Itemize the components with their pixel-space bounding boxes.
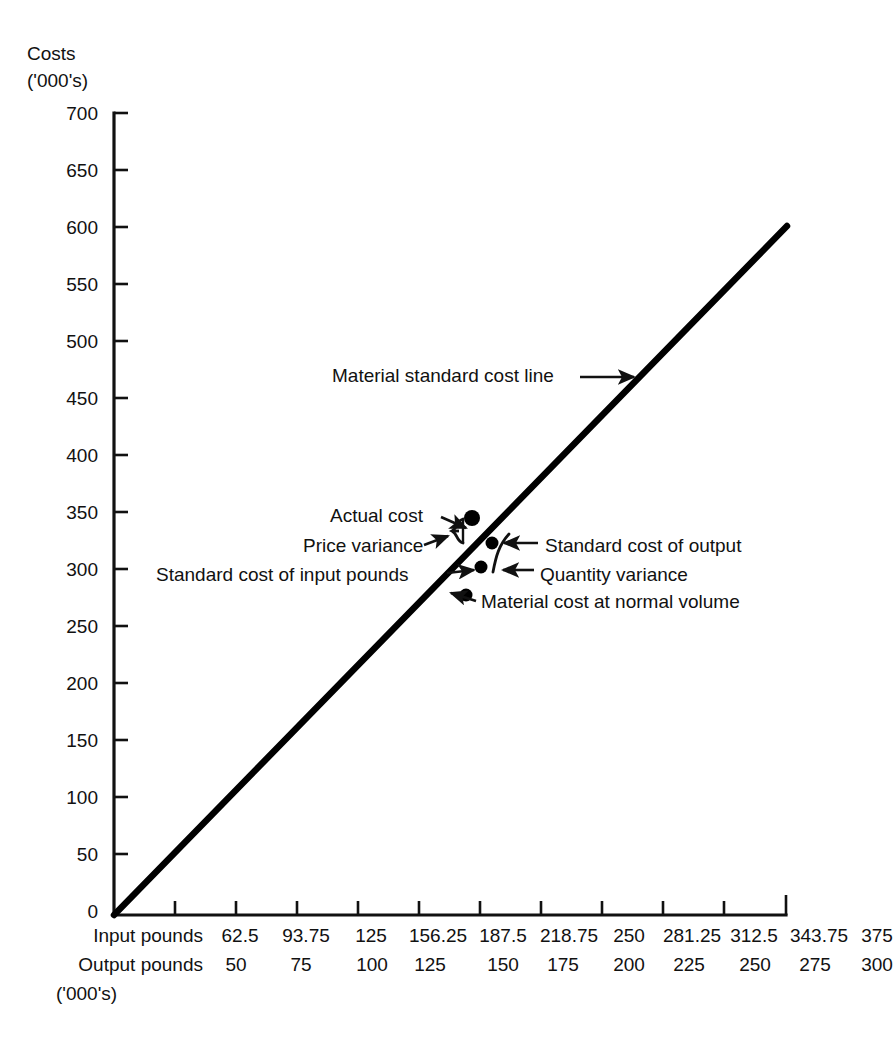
x-tick-label-output-10: 300: [861, 954, 893, 976]
y-tick-label-150: 150: [38, 730, 98, 752]
x-tick-label-output-3: 125: [414, 954, 446, 976]
marker-actual-cost: [464, 510, 480, 526]
y-tick-label-450: 450: [38, 388, 98, 410]
x-tick-label-output-0: 50: [225, 954, 246, 976]
y-tick-label-250: 250: [38, 616, 98, 638]
x-axis-row-heading-input: Input pounds: [0, 925, 203, 947]
y-axis-title: Costs('000's): [27, 40, 88, 94]
y-tick-label-400: 400: [38, 445, 98, 467]
x-tick-label-input-1: 93.75: [282, 925, 330, 947]
x-tick-label-output-8: 250: [739, 954, 771, 976]
y-tick-label-700: 700: [38, 103, 98, 125]
brace-price-variance: [452, 519, 463, 543]
leader-standard-cost-of-input-pounds: [447, 570, 474, 573]
x-tick-label-output-6: 200: [613, 954, 645, 976]
y-axis-title-line1: Costs: [27, 43, 76, 64]
leader-material-cost-at-normal-volume: [451, 593, 476, 601]
y-tick-label-100: 100: [38, 787, 98, 809]
x-axis-row-heading-output: Output pounds: [0, 954, 203, 976]
annotation-quantity-variance: Quantity variance: [540, 564, 688, 586]
x-tick-label-input-3: 156.25: [409, 925, 467, 947]
x-tick-label-input-4: 187.5: [479, 925, 527, 947]
y-tick-label-300: 300: [38, 559, 98, 581]
y-tick-label-650: 650: [38, 160, 98, 182]
brace-quantity-variance: [493, 534, 509, 572]
x-axis-ticks: [175, 895, 786, 915]
x-tick-label-input-2: 125: [355, 925, 387, 947]
marker-standard-cost-of-input-pounds: [475, 561, 488, 574]
y-tick-label-550: 550: [38, 274, 98, 296]
y-tick-label-200: 200: [38, 673, 98, 695]
leader-actual-cost: [441, 517, 466, 528]
y-tick-label-500: 500: [38, 331, 98, 353]
x-tick-label-input-6: 250: [613, 925, 645, 947]
annotation-price-variance: Price variance: [303, 535, 423, 557]
x-tick-label-output-7: 225: [673, 954, 705, 976]
x-tick-label-output-4: 150: [487, 954, 519, 976]
y-tick-label-350: 350: [38, 502, 98, 524]
x-tick-label-input-5: 218.75: [540, 925, 598, 947]
annotation-actual-cost: Actual cost: [330, 505, 423, 527]
y-axis-title-line2: ('000's): [27, 70, 88, 91]
leader-price-variance: [424, 536, 448, 545]
annotation-material-standard-cost-line: Material standard cost line: [332, 365, 554, 387]
x-tick-label-input-7: 281.25: [663, 925, 721, 947]
annotation-material-cost-at-normal-volume: Material cost at normal volume: [481, 591, 740, 613]
x-tick-label-input-0: 62.5: [222, 925, 259, 947]
x-tick-label-input-10: 375: [861, 925, 893, 947]
annotation-standard-cost-of-input-pounds: Standard cost of input pounds: [156, 564, 408, 586]
y-tick-label-600: 600: [38, 217, 98, 239]
y-tick-label-50: 50: [38, 844, 98, 866]
marker-standard-cost-of-output: [486, 537, 499, 550]
marker-material-cost-at-normal-volume: [460, 589, 473, 602]
y-tick-label-0: 0: [38, 901, 98, 923]
x-tick-label-output-9: 275: [799, 954, 831, 976]
y-axis-ticks: [114, 113, 128, 854]
x-tick-label-output-5: 175: [547, 954, 579, 976]
x-tick-label-output-2: 100: [356, 954, 388, 976]
annotation-standard-cost-of-output: Standard cost of output: [545, 535, 741, 557]
x-tick-label-output-1: 75: [290, 954, 311, 976]
x-axis-units-label: ('000's): [56, 983, 196, 1005]
x-tick-label-input-8: 312.5: [730, 925, 778, 947]
x-tick-label-input-9: 343.75: [790, 925, 848, 947]
